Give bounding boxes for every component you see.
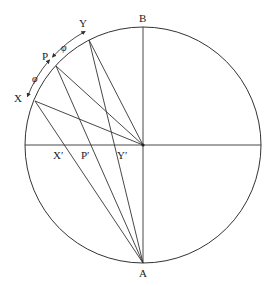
center-point	[141, 143, 144, 146]
label-A: A	[139, 267, 147, 279]
label-P: P	[42, 50, 48, 62]
line-O-X	[35, 101, 143, 145]
angle-label-phi-1: φ	[32, 73, 38, 84]
label-Y: Y	[79, 17, 87, 29]
label-Y-prime: Y′	[117, 149, 127, 161]
line-A-P	[56, 66, 143, 263]
label-B: B	[139, 12, 146, 24]
line-A-X	[35, 101, 143, 263]
label-X-prime: X′	[53, 149, 63, 161]
angle-label-phi-2: φ	[61, 42, 67, 53]
line-O-P	[56, 66, 143, 145]
label-X: X	[14, 92, 22, 104]
line-A-Y	[89, 40, 143, 263]
circle-diagram: B A X P Y X′ P′ Y′ φ φ	[0, 0, 274, 286]
label-P-prime: P′	[81, 149, 90, 161]
line-O-Y	[89, 40, 143, 145]
